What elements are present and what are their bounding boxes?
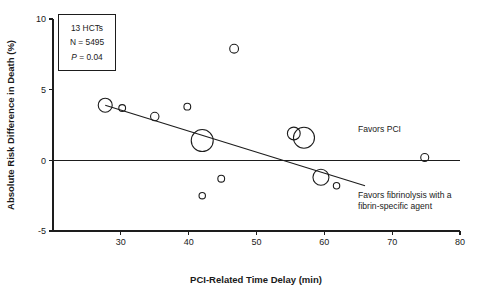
annotation-favors-fibrinolysis-line2: fibrin-specific agent	[358, 201, 433, 211]
x-tick-label: 70	[387, 237, 397, 247]
data-point-bubble	[151, 112, 159, 120]
x-tick-label: 30	[116, 237, 126, 247]
p-value-text: = 0.04	[77, 52, 103, 62]
figure-container: -50510304050607080 PCI-Related Time Dela…	[0, 0, 487, 292]
annotation-favors-pci: Favors PCI	[358, 124, 401, 134]
data-point-bubble	[184, 103, 191, 110]
y-tick-label: 10	[36, 14, 46, 24]
data-point-bubble	[333, 183, 339, 189]
statistics-box: 13 HCTs N = 5495 P = 0.04	[58, 14, 116, 71]
x-tick-label: 40	[184, 237, 194, 247]
x-axis-title: PCI-Related Time Delay (min)	[190, 274, 322, 285]
stats-trials: 13 HCTs	[71, 24, 103, 32]
stats-p-value: P = 0.04	[71, 53, 102, 61]
data-point-bubble	[191, 130, 213, 152]
data-point-bubble	[218, 175, 225, 182]
data-point-bubble	[293, 127, 314, 148]
data-points	[98, 44, 428, 199]
annotation-favors-fibrinolysis-line1: Favors fibrinolysis with a	[358, 190, 452, 200]
data-point-bubble	[230, 44, 239, 53]
y-tick-label: 5	[41, 85, 46, 95]
stats-sample-size: N = 5495	[70, 38, 104, 46]
data-point-bubble	[199, 192, 205, 198]
y-tick-label: -5	[38, 226, 46, 236]
y-axis-title: Absolute Risk Difference in Death (%)	[5, 40, 16, 210]
x-tick-label: 80	[455, 237, 465, 247]
y-tick-label: 0	[41, 156, 46, 166]
x-tick-label: 60	[319, 237, 329, 247]
x-tick-label: 50	[251, 237, 261, 247]
trend-line	[105, 105, 365, 186]
